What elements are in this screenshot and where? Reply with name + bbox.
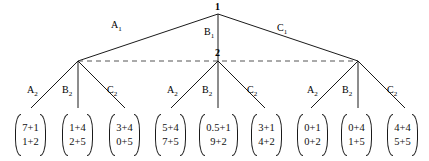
matrix-right-paren-icon	[322, 114, 328, 156]
matrix-body: 7+11+2	[21, 118, 39, 152]
edge-label-C1-sub: 1	[284, 28, 288, 36]
edge-label-C2-group1-sub: 2	[114, 90, 118, 98]
matrix-cell: 2+5	[69, 135, 85, 149]
matrix-m3: 3+40+5	[104, 114, 145, 156]
edge-label-C1-base: C	[277, 22, 284, 33]
node-label-root: 1	[215, 2, 220, 12]
edge-label-A2-group1: A2	[27, 85, 38, 98]
matrix-body: 0+41+5	[347, 118, 365, 152]
matrix-cell: 3+4	[116, 121, 132, 135]
edge-label-C2-group2-base: C	[247, 84, 254, 95]
edge-label-B1-base: B	[204, 26, 211, 37]
matrix-cell: 4+4	[394, 121, 410, 135]
edge-label-A1-sub: 1	[118, 25, 122, 33]
edge-label-A1: A1	[111, 20, 122, 33]
edge-label-C2-group1-base: C	[107, 84, 114, 95]
matrix-m8: 0+41+5	[336, 114, 377, 156]
edge-label-B2-group3-base: B	[342, 84, 349, 95]
matrix-m1: 7+11+2	[10, 114, 51, 156]
edge-label-B2-group3: B2	[342, 85, 352, 98]
edge-label-B2-group1-sub: 2	[69, 90, 73, 98]
matrix-right-paren-icon	[232, 114, 238, 156]
matrix-right-paren-icon	[412, 114, 418, 156]
matrix-body: 1+42+5	[68, 118, 86, 152]
matrix-cell: 0+2	[304, 135, 320, 149]
tree-diagram-canvas: 1 2 A1 B1 C1 A2 B2 C2 A2 B2 C2 A2 B2 C2 …	[0, 0, 429, 161]
matrix-right-paren-icon	[40, 114, 46, 156]
matrix-cell: 0+4	[348, 121, 364, 135]
edge-label-B2-group3-sub: 2	[349, 90, 353, 98]
edge-label-C2-group1: C2	[107, 85, 117, 98]
edge-label-C2-group3: C2	[387, 85, 397, 98]
matrix-right-paren-icon	[276, 114, 282, 156]
matrix-right-paren-icon	[366, 114, 372, 156]
edge-label-B2-group2-base: B	[202, 84, 209, 95]
matrix-m2: 1+42+5	[57, 114, 98, 156]
edge-left-to-m3	[78, 61, 125, 108]
matrix-cell: 0+5	[116, 135, 132, 149]
matrix-body: 3+14+2	[257, 118, 275, 152]
matrix-body: 0+10+2	[303, 118, 321, 152]
edge-label-B2-group2: B2	[202, 85, 212, 98]
edge-root-to-right	[218, 14, 358, 61]
matrix-cell: 3+1	[258, 121, 274, 135]
edge-label-A2-group3: A2	[307, 85, 318, 98]
matrix-body: 3+40+5	[115, 118, 133, 152]
matrix-cell: 0.5+1	[206, 121, 230, 135]
edge-label-C2-group2-sub: 2	[254, 90, 258, 98]
matrix-body: 4+45+5	[393, 118, 411, 152]
edge-label-C2-group3-sub: 2	[394, 90, 398, 98]
matrix-m7: 0+10+2	[292, 114, 333, 156]
matrix-m4: 5+47+5	[150, 114, 191, 156]
matrix-cell: 1+5	[348, 135, 364, 149]
edge-label-B1-sub: 1	[211, 32, 215, 40]
matrix-cell: 9+2	[210, 135, 226, 149]
matrix-cell: 1+2	[22, 135, 38, 149]
edge-label-B2-group1: B2	[62, 85, 72, 98]
matrix-cell: 1+4	[69, 121, 85, 135]
edge-label-A2-group2: A2	[167, 85, 178, 98]
matrix-body: 0.5+19+2	[205, 118, 231, 152]
matrix-cell: 5+5	[394, 135, 410, 149]
matrix-right-paren-icon	[87, 114, 93, 156]
matrix-m5: 0.5+19+2	[194, 114, 243, 156]
edge-label-C2-group2: C2	[247, 85, 257, 98]
edge-right-to-m9	[358, 61, 405, 108]
edge-label-B1: B1	[204, 27, 214, 40]
matrix-cell: 7+5	[162, 135, 178, 149]
matrix-right-paren-icon	[180, 114, 186, 156]
matrix-cell: 7+1	[22, 121, 38, 135]
matrix-cell: 4+2	[258, 135, 274, 149]
matrix-body: 5+47+5	[161, 118, 179, 152]
edge-label-A2-group1-sub: 2	[34, 90, 38, 98]
edge-label-B2-group1-base: B	[62, 84, 69, 95]
node-label-level2-middle: 2	[215, 48, 220, 58]
matrix-right-paren-icon	[134, 114, 140, 156]
matrix-m9: 4+45+5	[382, 114, 423, 156]
matrix-cell: 0+1	[304, 121, 320, 135]
edge-label-A2-group2-sub: 2	[174, 90, 178, 98]
edge-root-to-left	[78, 14, 218, 61]
edge-label-B2-group2-sub: 2	[209, 90, 213, 98]
edge-label-C1: C1	[277, 23, 287, 36]
edge-label-A2-group3-sub: 2	[314, 90, 318, 98]
matrix-m6: 3+14+2	[246, 114, 287, 156]
edge-middle-to-m6	[218, 61, 265, 108]
matrix-cell: 5+4	[162, 121, 178, 135]
edge-label-C2-group3-base: C	[387, 84, 394, 95]
